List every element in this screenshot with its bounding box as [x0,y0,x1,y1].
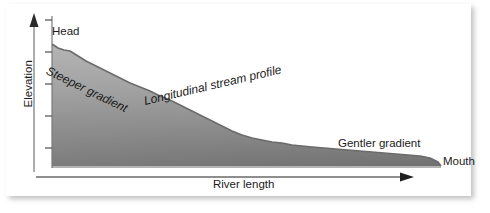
label-head: Head [52,26,80,38]
label-mouth: Mouth [443,156,475,168]
x-axis-label: River length [213,179,274,191]
y-axis [45,16,52,168]
stream-profile-figure: Head Steeper gradient Longitudinal strea… [0,0,490,213]
y-axis-label: Elevation [23,49,35,119]
label-gentler-gradient: Gentler gradient [338,138,420,150]
